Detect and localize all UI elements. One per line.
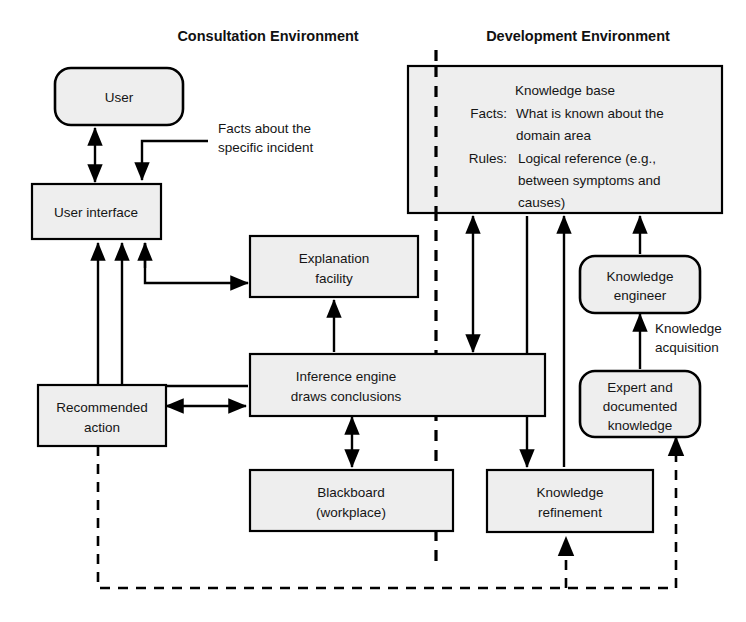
title-consultation-environment: Consultation Environment: [177, 28, 358, 44]
annotation-knowledge-acquisition: Knowledge acquisition: [655, 321, 722, 355]
node-knowledge-engineer-shape[interactable]: [580, 256, 700, 313]
node-blackboard-shape[interactable]: [250, 470, 453, 531]
knowledge-base-rules-line1: Logical reference (e.g.,: [518, 151, 656, 166]
node-recommended-action[interactable]: Recommended action: [38, 385, 166, 446]
node-knowledge-refinement[interactable]: Knowledge refinement: [487, 470, 653, 532]
connector-user-interface-to-explanation-facility: [145, 243, 248, 283]
knowledge-base-facts-key: Facts:: [470, 106, 507, 121]
node-explanation-facility-shape[interactable]: [250, 236, 418, 297]
knowledge-base-rules-line2: between symptoms and: [518, 173, 661, 188]
node-knowledge-engineer-label-line1: Knowledge: [607, 269, 674, 284]
node-explanation-facility-label-line2: facility: [315, 271, 353, 286]
node-knowledge-refinement-shape[interactable]: [487, 470, 653, 532]
node-inference-engine[interactable]: Inference engine draws conclusions: [250, 354, 545, 416]
node-recommended-action-shape[interactable]: [38, 385, 166, 446]
node-recommended-action-label-line2: action: [84, 420, 120, 435]
knowledge-base-rules-key: Rules:: [469, 151, 507, 166]
connector-inference-engine-to-user-interface: [122, 243, 248, 386]
node-knowledge-engineer-label-line2: engineer: [614, 288, 667, 303]
node-user-interface[interactable]: User interface: [32, 184, 161, 239]
node-expert-label-line2: documented: [603, 399, 677, 414]
annotation-facts-line2: specific incident: [218, 140, 314, 155]
node-knowledge-refinement-label-line1: Knowledge: [537, 485, 604, 500]
title-development-environment: Development Environment: [486, 28, 670, 44]
node-expert-documented-knowledge[interactable]: Expert and documented knowledge: [580, 371, 700, 437]
node-inference-engine-label-line1: Inference engine: [296, 369, 397, 384]
node-inference-engine-shape[interactable]: [250, 354, 545, 416]
annotation-knowledge-acquisition-line1: Knowledge: [655, 321, 722, 336]
node-user-label: User: [105, 90, 134, 105]
annotation-knowledge-acquisition-line2: acquisition: [655, 340, 719, 355]
node-knowledge-base[interactable]: Knowledge base Facts: What is known abou…: [408, 66, 722, 213]
node-explanation-facility[interactable]: Explanation facility: [250, 236, 418, 297]
node-blackboard[interactable]: Blackboard (workplace): [250, 470, 453, 531]
node-blackboard-label-line1: Blackboard: [317, 485, 385, 500]
connector-facts-to-user-interface: [142, 141, 208, 180]
node-expert-label-line3: knowledge: [608, 418, 673, 433]
knowledge-base-facts-line1: What is known about the: [516, 106, 664, 121]
node-recommended-action-label-line1: Recommended: [56, 400, 148, 415]
annotation-facts-about-incident: Facts about the specific incident: [218, 121, 314, 155]
node-explanation-facility-label-line1: Explanation: [299, 251, 370, 266]
node-expert-label-line1: Expert and: [607, 380, 672, 395]
knowledge-base-title: Knowledge base: [515, 83, 615, 98]
annotation-facts-line1: Facts about the: [218, 121, 311, 136]
diagram-canvas: Consultation Environment Development Env…: [0, 0, 746, 622]
node-knowledge-engineer[interactable]: Knowledge engineer: [580, 256, 700, 313]
node-user[interactable]: User: [55, 68, 183, 125]
knowledge-base-rules-line3: causes): [518, 195, 565, 210]
node-knowledge-refinement-label-line2: refinement: [538, 505, 602, 520]
node-user-interface-label: User interface: [54, 205, 138, 220]
node-inference-engine-label-line2: draws conclusions: [291, 389, 402, 404]
node-blackboard-label-line2: (workplace): [316, 505, 386, 520]
expert-system-diagram: Consultation Environment Development Env…: [0, 0, 746, 622]
knowledge-base-facts-line2: domain area: [516, 128, 592, 143]
